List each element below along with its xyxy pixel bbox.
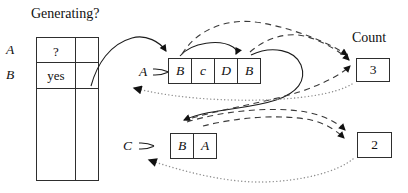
table-row-divider-1: [37, 62, 98, 63]
generating-question-label: Generating?: [31, 7, 99, 21]
pointer-table-b-to-rule-a: [91, 37, 166, 86]
count-box-3: 3: [356, 58, 390, 82]
ref-rule-a-first-b-to-count3: [182, 21, 347, 55]
count-header-label: Count: [352, 31, 386, 45]
rule-a-symbol-1: B: [168, 58, 192, 84]
rule-a-symbol-2: c: [191, 58, 215, 84]
table-row-divider-2: [37, 88, 98, 89]
pointer-rule-a-first-b-to-d: [180, 43, 236, 56]
rule-c-symbol-list: B A: [170, 133, 217, 159]
table-cell-b-value: yes: [37, 69, 75, 82]
rule-a-symbol-list: B c D B: [168, 58, 261, 84]
rule-a-label: A: [139, 65, 147, 79]
double-arrow-icon: [138, 140, 156, 152]
rule-a-symbol-4: B: [237, 58, 261, 84]
ref-rule-c-a-to-count2: [203, 117, 344, 138]
ref-rule-a-last-b-to-count3: [250, 35, 349, 60]
backref-count3-to-rule-a: [134, 84, 352, 100]
table-row-label-b: B: [6, 68, 14, 82]
table-row-label-a: A: [6, 43, 14, 57]
table-column-divider: [75, 38, 76, 180]
rule-c-symbol-2: A: [193, 133, 217, 159]
rule-c-symbol-1: B: [170, 133, 194, 159]
rule-c-label: C: [123, 139, 132, 153]
table-cell-a-value: ?: [37, 45, 75, 58]
ref-rule-c-to-count2-upper: [187, 109, 345, 130]
grammar-datastructure-diagram: Generating? A B ? yes A B c D B C B A Co…: [0, 0, 408, 193]
count-box-2: 2: [357, 132, 392, 158]
rule-a-symbol-3: D: [214, 58, 238, 84]
generating-table: ? yes: [36, 37, 99, 181]
backref-count2-to-rule-c: [149, 159, 353, 182]
